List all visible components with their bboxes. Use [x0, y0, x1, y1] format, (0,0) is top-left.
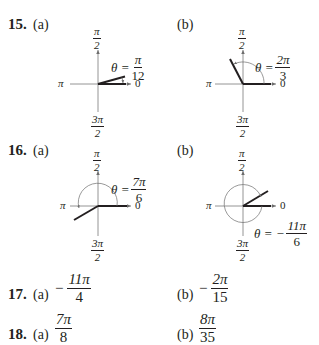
answer-18a: 7π8 — [55, 312, 72, 345]
problem-number-17: 17. — [8, 286, 27, 303]
axis-label-left-15a: π — [58, 77, 64, 89]
problem-number-16: 16. — [8, 142, 27, 159]
axis-label-bottom-15b: 3π 2 — [236, 114, 249, 139]
theta-label-16a: θ = 7π6 — [111, 175, 146, 204]
axis-label-top-15a: π 2 — [93, 26, 101, 51]
part-label-18b: (b) — [177, 327, 193, 343]
axis-label-right-16b: 0 — [280, 199, 286, 211]
part-label-18a: (a) — [33, 327, 49, 343]
part-label-17a: (a) — [33, 287, 49, 303]
axis-label-left-16a: π — [60, 199, 66, 211]
axis-label-bottom-16b: 3π 2 — [236, 238, 249, 263]
axis-label-top-16a: π 2 — [93, 148, 101, 173]
part-label-16b: (b) — [177, 143, 193, 159]
theta-label-15a: θ = π12 — [111, 53, 144, 82]
axis-label-bottom-16a: 3π 2 — [91, 238, 104, 263]
part-label-17b: (b) — [177, 287, 193, 303]
answer-17b: − 2π15 — [199, 272, 228, 305]
axis-label-left-16b: π — [206, 199, 212, 211]
problem-number-15: 15. — [8, 16, 27, 33]
axis-label-top-15b: π 2 — [238, 26, 246, 51]
theta-label-15b: θ = 2π3 — [255, 53, 290, 82]
answer-18b: 8π35 — [199, 312, 216, 345]
answer-17a: − 11π4 — [55, 272, 91, 305]
part-label-16a: (a) — [33, 143, 49, 159]
problem-number-18: 18. — [8, 326, 27, 343]
part-label-15b: (b) — [177, 17, 193, 33]
theta-label-16b: θ = − 11π6 — [254, 219, 307, 248]
axis-label-top-16b: π 2 — [238, 148, 246, 173]
axis-label-left-15b: π — [206, 77, 212, 89]
part-label-15a: (a) — [33, 17, 49, 33]
axis-label-bottom-15a: 3π 2 — [91, 114, 104, 139]
